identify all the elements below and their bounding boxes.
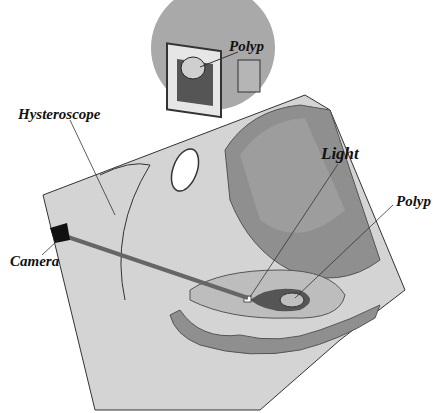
monitor-polyp-label: Polyp bbox=[229, 38, 264, 55]
camera-label: Camera bbox=[10, 253, 59, 270]
light-label: Light bbox=[321, 144, 359, 164]
hysteroscope-label: Hysteroscope bbox=[18, 106, 100, 123]
anatomy-illustration bbox=[0, 0, 439, 413]
diagram: Polyp Hysteroscope Camera Light Polyp bbox=[0, 0, 439, 413]
polyp-label: Polyp bbox=[396, 193, 431, 210]
monitor-inset bbox=[151, 0, 275, 117]
